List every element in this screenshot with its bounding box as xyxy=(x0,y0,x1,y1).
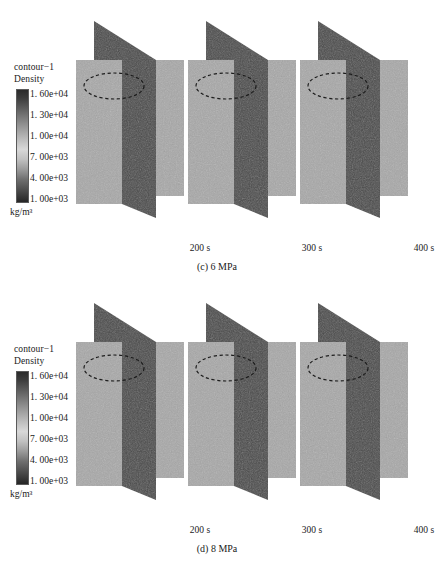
contour-roof-wedge xyxy=(94,21,156,60)
contour-panel xyxy=(186,296,298,508)
time-label: 300 s xyxy=(277,525,347,535)
contour-panel xyxy=(298,296,410,508)
subfigure-caption-d: (d) 8 MPa xyxy=(0,543,434,554)
contour-plane-back xyxy=(154,60,184,196)
contour-plane-right xyxy=(122,60,156,218)
contour-plane-back xyxy=(154,342,184,478)
subfigure-caption-c: (c) 6 MPa xyxy=(0,261,434,272)
contour-plane-back xyxy=(378,60,408,196)
contour-plane-back xyxy=(378,342,408,478)
time-label: 400 s xyxy=(389,525,439,535)
time-label: 400 s xyxy=(389,243,439,253)
contour-plane-right xyxy=(234,342,268,500)
subfigure-d: contour−1 Density 1. 60e+04 1. 30e+04 1.… xyxy=(0,282,434,565)
contour-plane-back xyxy=(266,60,296,196)
contour-plane-right xyxy=(346,60,380,218)
contour-plane-right xyxy=(122,342,156,500)
contour-roof-wedge xyxy=(318,303,380,342)
contour-roof-wedge xyxy=(206,21,268,60)
time-label: 200 s xyxy=(165,243,235,253)
contour-roof-wedge xyxy=(206,303,268,342)
time-label: 300 s xyxy=(277,243,347,253)
contour-roof-wedge xyxy=(318,21,380,60)
panel-row-c xyxy=(0,0,434,240)
contour-roof-wedge xyxy=(94,303,156,342)
contour-plane-back xyxy=(266,342,296,478)
contour-panel xyxy=(186,14,298,226)
contour-panel xyxy=(298,14,410,226)
time-label: 200 s xyxy=(165,525,235,535)
panel-row-d xyxy=(0,282,434,522)
contour-panel xyxy=(74,14,186,226)
contour-plane-right xyxy=(234,60,268,218)
contour-plane-right xyxy=(346,342,380,500)
contour-panel xyxy=(74,296,186,508)
subfigure-c: contour−1 Density 1. 60e+04 1. 30e+04 1.… xyxy=(0,0,434,282)
